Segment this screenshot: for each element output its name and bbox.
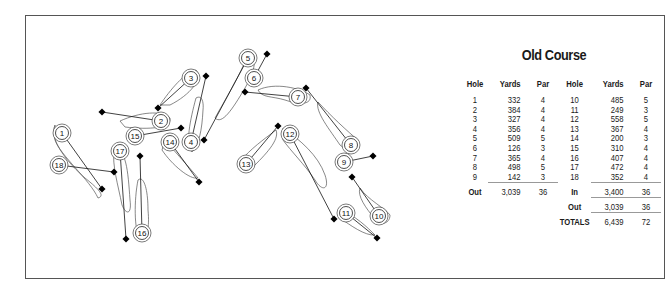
header-par-back: Par — [633, 80, 660, 96]
front-par: 3 — [530, 173, 557, 183]
hole-number-label: 2 — [159, 117, 164, 126]
scorecard-header-row: Hole Yards Par Hole Yards Par — [462, 80, 661, 96]
table-row: 55095142003 — [462, 134, 661, 144]
tee-marker-icon — [263, 50, 270, 57]
tee-marker-icon — [348, 173, 355, 180]
hole-number-label: 5 — [246, 54, 251, 63]
out-par: 36 — [530, 183, 557, 198]
hole-17: 17 — [111, 142, 130, 243]
spacer — [530, 198, 557, 213]
header-hole-back: Hole — [560, 80, 590, 96]
table-row: 61263153104 — [462, 144, 661, 154]
play-line — [120, 151, 126, 239]
spacer — [463, 213, 486, 228]
hole-number-label: 18 — [55, 161, 64, 170]
table-row: 23844112493 — [462, 106, 661, 116]
hole-number-label: 8 — [349, 141, 354, 150]
hole-number-label: 17 — [116, 147, 125, 156]
hole-18: 18 — [50, 156, 118, 176]
tee-marker-icon — [369, 152, 376, 159]
hole-number-label: 14 — [166, 138, 175, 147]
tee-marker-icon — [136, 152, 143, 159]
header-hole: Hole — [463, 80, 486, 96]
hole-number-label: 6 — [252, 74, 257, 83]
header-par: Par — [530, 80, 557, 96]
hole-8: 8 — [302, 84, 360, 154]
back-par: 4 — [633, 173, 660, 183]
play-line — [290, 134, 334, 219]
in-yards: 3,400 — [593, 183, 629, 198]
hole-number-label: 13 — [242, 160, 251, 169]
course-title: Old Course — [503, 46, 605, 63]
spacer — [463, 198, 486, 213]
hole-number-label: 15 — [131, 132, 140, 141]
tee-marker-icon — [200, 136, 207, 143]
back-yards: 352 — [593, 173, 629, 183]
hole-number-label: 4 — [189, 138, 194, 147]
hole-number-label: 3 — [189, 74, 194, 83]
out-yards: 3,039 — [490, 183, 526, 198]
hole-16: 16 — [133, 152, 151, 242]
back-hole: 18 — [560, 173, 590, 183]
hole-number-label: 11 — [342, 209, 351, 218]
spacer — [490, 198, 526, 213]
hole-5: 5 — [200, 49, 257, 144]
tee-marker-icon — [202, 72, 209, 79]
table-row: 43564133674 — [462, 125, 661, 135]
front-hole: 9 — [463, 173, 486, 183]
hole-13: 13 — [237, 122, 282, 173]
out-repeat-row: Out3,03936 — [462, 198, 661, 213]
hole-number-label: 10 — [375, 212, 384, 221]
front-yards: 142 — [490, 173, 526, 183]
subtotal-row: Out3,03936In3,40036 — [462, 183, 661, 198]
tee-marker-icon — [195, 178, 202, 185]
totals-par: 72 — [633, 213, 660, 228]
tee-marker-icon — [122, 235, 129, 242]
tee-marker-icon — [241, 88, 248, 95]
table-row: 73654164074 — [462, 154, 661, 164]
play-line — [140, 156, 142, 233]
hole-number-label: 9 — [342, 158, 347, 167]
hole-number-label: 16 — [138, 229, 147, 238]
hole-9: 9 — [335, 152, 377, 171]
in-par: 36 — [633, 183, 660, 198]
tee-marker-icon — [98, 108, 105, 115]
table-row: 84985174724 — [462, 163, 661, 173]
play-line — [306, 88, 351, 145]
scorecard-table: Hole Yards Par Hole Yards Par 1332410485… — [462, 80, 661, 227]
table-row: 13324104855 — [462, 96, 661, 106]
hole-number-label: 12 — [286, 130, 295, 139]
tee-marker-icon — [330, 215, 337, 222]
totals-yards: 6,439 — [593, 213, 629, 228]
header-yards-back: Yards — [593, 80, 629, 96]
hole-3: 3 — [154, 69, 200, 112]
tee-marker-icon — [110, 168, 117, 175]
table-row: 33274125585 — [462, 115, 661, 125]
spacer — [490, 213, 526, 228]
spacer — [530, 213, 557, 228]
out-label: Out — [463, 183, 486, 198]
play-line — [204, 58, 248, 140]
table-row: 91423183524 — [462, 173, 661, 183]
totals-row: TOTALS6,43972 — [462, 213, 661, 228]
out-repeat-par: 36 — [633, 198, 660, 213]
tee-marker-icon — [177, 124, 184, 131]
hole-number-label: 1 — [60, 129, 65, 138]
header-yards: Yards — [490, 80, 526, 96]
totals-label: TOTALS — [560, 213, 590, 228]
hole-7: 7 — [241, 86, 310, 106]
in-label: In — [560, 183, 590, 198]
out-repeat-label: Out — [560, 198, 590, 213]
hole-12: 12 — [281, 125, 338, 223]
hole-number-label: 7 — [296, 93, 301, 102]
out-repeat-yards: 3,039 — [593, 198, 629, 213]
